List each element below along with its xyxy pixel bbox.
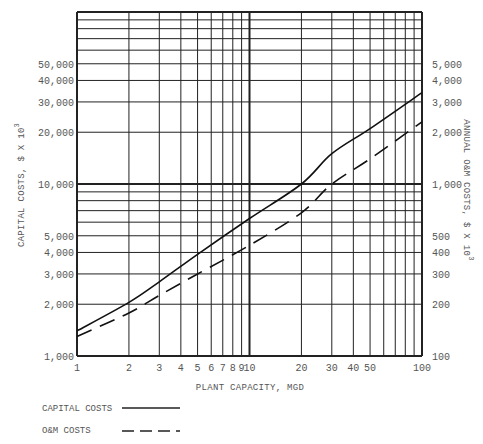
- y-tick-label: 20,000: [38, 128, 74, 139]
- y-tick-label: 5,000: [44, 232, 74, 243]
- x-tick-label: 6: [208, 363, 214, 374]
- x-tick-label: 4: [178, 363, 184, 374]
- x-axis-label: PLANT CAPACITY, MGD: [196, 383, 304, 393]
- y-tick-label: 1,000: [44, 352, 74, 363]
- y2-tick-label: 400: [432, 248, 450, 259]
- legend-om-label: O&M COSTS: [42, 426, 91, 436]
- y-tick-label: 50,000: [38, 60, 74, 71]
- y-tick-label: 40,000: [38, 76, 74, 87]
- legend-capital-label: CAPITAL COSTS: [42, 404, 112, 414]
- y-tick-label: 2,000: [44, 300, 74, 311]
- y-tick-label: 10,000: [38, 180, 74, 191]
- legend-dashed-line-icon: [120, 426, 185, 436]
- x-tick-label: 20: [295, 363, 307, 374]
- y2-tick-label: 100: [432, 352, 450, 363]
- y-tick-label: 4,000: [44, 248, 74, 259]
- x-tick-label: 50: [364, 363, 376, 374]
- y2-tick-label: 500: [432, 232, 450, 243]
- x-tick-label: 10: [243, 363, 255, 374]
- y2-tick-label: 2,000: [432, 128, 462, 139]
- x-tick-label: 100: [413, 363, 431, 374]
- y2-axis-label: ANNUAL O&M COSTS, $ X 103: [461, 119, 475, 260]
- y2-tick-label: 3,000: [432, 98, 462, 109]
- grid-lines: [77, 12, 422, 356]
- y2-tick-label: 200: [432, 300, 450, 311]
- x-tick-label: 40: [347, 363, 359, 374]
- x-tick-label: 3: [156, 363, 162, 374]
- y2-tick-label: 5,000: [432, 60, 462, 71]
- x-tick-label: 1: [74, 363, 80, 374]
- y2-tick-label: 4,000: [432, 76, 462, 87]
- x-tick-label: 7: [220, 363, 226, 374]
- cost-chart: 12345678910203040501001,0002,0003,0004,0…: [0, 0, 483, 444]
- legend-om: O&M COSTS: [42, 426, 91, 436]
- x-tick-label: 5: [195, 363, 201, 374]
- legend-capital: CAPITAL COSTS: [42, 404, 112, 414]
- legend-solid-line-icon: [120, 404, 185, 414]
- y2-tick-label: 1,000: [432, 180, 462, 191]
- x-tick-label: 30: [326, 363, 338, 374]
- y-tick-label: 3,000: [44, 270, 74, 281]
- y2-tick-label: 300: [432, 270, 450, 281]
- y-axis-label: CAPITAL COSTS, $ X 103: [13, 123, 27, 247]
- y-tick-label: 30,000: [38, 98, 74, 109]
- x-tick-label: 2: [126, 363, 132, 374]
- x-tick-label: 8: [230, 363, 236, 374]
